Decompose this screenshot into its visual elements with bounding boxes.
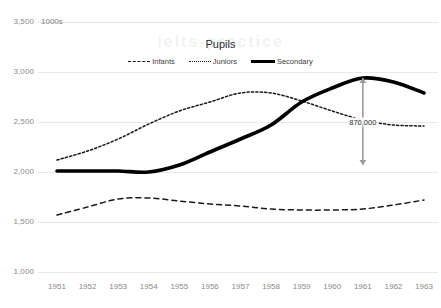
- legend-item-juniors[interactable]: Juniors: [189, 57, 237, 66]
- legend-swatch-juniors-icon: [189, 61, 211, 62]
- legend-label-secondary: Secondary: [277, 57, 313, 66]
- annotation-arrowhead-bottom: [359, 160, 366, 165]
- legend-swatch-secondary-icon: [251, 60, 275, 63]
- legend-item-secondary[interactable]: Secondary: [251, 57, 313, 66]
- y-axis-units-label: 1000s: [41, 17, 63, 26]
- chart-legend: Infants Juniors Secondary: [0, 57, 441, 66]
- pupils-line-chart: ielts-practice 3,5003,0002,5002,0001,500…: [0, 0, 441, 308]
- legend-swatch-infants-icon: [128, 61, 150, 62]
- annotation-label: 870,000: [347, 117, 378, 126]
- series-line-infants: [57, 198, 424, 215]
- legend-label-juniors: Juniors: [213, 57, 237, 66]
- legend-label-infants: Infants: [152, 57, 175, 66]
- legend-item-infants[interactable]: Infants: [128, 57, 175, 66]
- chart-title: Pupils: [0, 38, 441, 50]
